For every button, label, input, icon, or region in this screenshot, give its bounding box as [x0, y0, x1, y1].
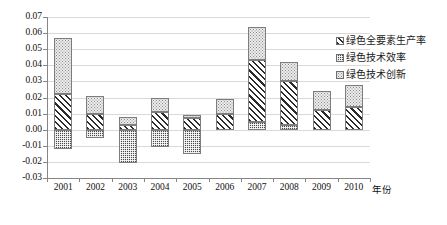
- legend-swatch-hatch-icon: [336, 37, 344, 45]
- y-axis-tick: [43, 81, 47, 82]
- bar-segment: [86, 96, 104, 114]
- bar-segment: [345, 85, 363, 108]
- bar-chart: 0.070.060.050.040.030.020.010.00-0.01-0.…: [0, 0, 447, 225]
- y-axis-tick: [43, 65, 47, 66]
- bar-segment: [345, 107, 363, 130]
- bar-segment: [54, 130, 72, 149]
- legend-item-green-tech-efficiency: 绿色技术效率: [336, 51, 426, 64]
- y-axis-tick: [43, 162, 47, 163]
- bar-segment: [54, 38, 72, 94]
- bar-segment: [248, 27, 266, 61]
- legend-swatch-light-icon: [336, 71, 344, 79]
- gridline: [47, 162, 370, 163]
- y-axis-line: [47, 17, 48, 178]
- bar-segment: [248, 60, 266, 121]
- bar-segment: [216, 99, 234, 113]
- y-axis-tick: [43, 49, 47, 50]
- y-axis-tick: [43, 17, 47, 18]
- y-axis-tick-label: 0.03: [0, 76, 42, 85]
- bar-segment: [183, 130, 201, 154]
- gridline: [47, 49, 370, 50]
- y-axis-tick-label: 0.04: [0, 60, 42, 69]
- gridline: [47, 146, 370, 147]
- bar-segment: [86, 130, 104, 138]
- bar-segment: [151, 98, 169, 112]
- y-axis-tick-label: 0.01: [0, 109, 42, 118]
- y-axis-tick: [43, 146, 47, 147]
- y-axis-tick-label: 0.02: [0, 93, 42, 102]
- bar-segment: [280, 81, 298, 124]
- legend-label-green-tech-efficiency: 绿色技术效率: [346, 52, 406, 63]
- legend-swatch-dark-icon: [336, 54, 344, 62]
- x-axis-title: 年份: [372, 182, 392, 196]
- bar-segment: [313, 91, 331, 110]
- gridline: [47, 17, 370, 18]
- y-axis-tick: [43, 33, 47, 34]
- x-axis-tick-label: 2010: [334, 182, 374, 192]
- bar-segment: [313, 110, 331, 129]
- bar-segment: [86, 114, 104, 130]
- y-axis-tick-label: 0.00: [0, 125, 42, 134]
- bar-segment: [151, 130, 169, 148]
- legend-item-green-tech-innovation: 绿色技术创新: [336, 68, 426, 81]
- y-axis-tick-label: 0.07: [0, 12, 42, 21]
- y-axis-tick: [43, 130, 47, 131]
- bar-segment: [54, 94, 72, 129]
- bar-segment: [280, 62, 298, 81]
- bar-segment: [216, 114, 234, 130]
- bar-segment: [280, 125, 298, 130]
- chart-legend: 绿色全要素生产率 绿色技术效率 绿色技术创新: [336, 34, 426, 85]
- y-axis-tick-label: 0.05: [0, 44, 42, 53]
- x-axis-tick: [370, 178, 371, 182]
- legend-label-green-tfp: 绿色全要素生产率: [346, 35, 426, 46]
- bar-segment: [183, 118, 201, 129]
- bar-segment: [119, 125, 137, 130]
- gridline: [47, 81, 370, 82]
- legend-item-green-tfp: 绿色全要素生产率: [336, 34, 426, 47]
- y-axis-tick-label: -0.03: [0, 173, 42, 182]
- y-axis-tick: [43, 98, 47, 99]
- gridline: [47, 65, 370, 66]
- bar-segment: [119, 130, 137, 164]
- bar-segment: [248, 122, 266, 130]
- legend-label-green-tech-innovation: 绿色技术创新: [346, 69, 406, 80]
- y-axis-tick-label: 0.06: [0, 28, 42, 37]
- bar-segment: [183, 115, 201, 118]
- bar-segment: [119, 117, 137, 125]
- y-axis-tick-label: -0.02: [0, 157, 42, 166]
- y-axis-tick: [43, 114, 47, 115]
- y-axis-tick-label: -0.01: [0, 141, 42, 150]
- gridline: [47, 33, 370, 34]
- bar-segment: [151, 112, 169, 130]
